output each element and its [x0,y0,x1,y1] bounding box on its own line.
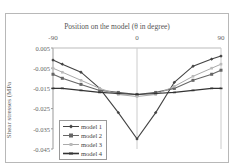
cross-marker-icon [62,141,80,148]
legend-item-model-3: model 3 [62,140,108,149]
legend-item-model-4: model 4 [62,149,108,158]
legend: model 1 model 2 model 3 model 4 [59,120,107,160]
dash-marker-icon [62,150,80,157]
plot-area [0,0,234,165]
diamond-marker-icon [62,123,80,130]
square-marker-icon [62,132,80,139]
legend-item-model-2: model 2 [62,131,108,140]
legend-item-model-1: model 1 [62,122,108,131]
